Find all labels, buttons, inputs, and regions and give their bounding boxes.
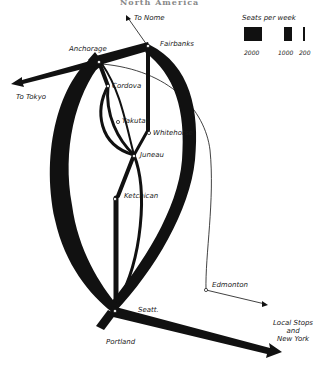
- arrow-nome-icon: [126, 15, 131, 21]
- arrow-edmonton-icon: [262, 301, 268, 307]
- node-fairbanks: [146, 44, 149, 47]
- label-anchorage: Anchorage: [69, 46, 107, 53]
- flow-edmonton-east: [206, 290, 265, 304]
- label-fairbanks: Fairbanks: [160, 41, 194, 48]
- legend-values: 2000 1000 200: [242, 49, 322, 59]
- label-local-ny-line1: Local Stops: [268, 319, 318, 327]
- node-juneau: [132, 154, 135, 157]
- legend-swatch-2000: [244, 27, 262, 41]
- node-seattle: [113, 309, 116, 312]
- label-portland: Portland: [106, 339, 135, 346]
- label-cordova: Cordova: [112, 83, 141, 90]
- node-anchorage: [97, 60, 100, 63]
- node-ketchikan: [113, 197, 116, 200]
- legend-swatch-1000: [284, 27, 292, 41]
- node-cordova: [106, 84, 109, 87]
- label-seattle: Seatt.: [138, 307, 159, 314]
- flow-new-york: [109, 306, 282, 358]
- flow-juneau-ketchikan: [118, 155, 134, 196]
- label-to-tokyo: To Tokyo: [16, 94, 46, 101]
- legend-title: Seats per week: [242, 14, 322, 22]
- flow-portland: [96, 310, 116, 330]
- label-local-ny-line2: and: [268, 327, 318, 335]
- legend-value-1000: 1000: [278, 49, 293, 56]
- node-edmonton: [204, 288, 207, 291]
- label-ketchikan: Ketchican: [124, 193, 158, 200]
- legend: Seats per week 2000 1000 200: [242, 14, 322, 59]
- label-edmonton: Edmonton: [212, 282, 248, 289]
- label-local-ny: Local Stops and New York: [268, 319, 318, 343]
- legend-swatches: [242, 27, 322, 43]
- legend-swatch-200: [303, 27, 305, 41]
- flow-nome: [128, 18, 147, 45]
- node-yakutat: [116, 120, 119, 123]
- label-whitehorse: Whitehorse: [153, 130, 193, 137]
- label-to-nome: To Nome: [134, 15, 165, 22]
- label-local-ny-line3: New York: [268, 335, 318, 343]
- label-yakutat: Yakutat: [122, 118, 148, 125]
- legend-value-2000: 2000: [244, 49, 259, 56]
- label-juneau: Juneau: [140, 152, 164, 159]
- node-whitehorse: [147, 131, 150, 134]
- legend-value-200: 200: [299, 49, 310, 56]
